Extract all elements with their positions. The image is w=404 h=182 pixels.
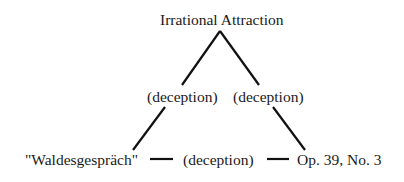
edge-label-top-right: (deception) (233, 89, 304, 105)
edge-label-left-right: (deception) (183, 152, 254, 168)
node-irrational-attraction: Irrational Attraction (160, 12, 284, 28)
edge-top-right-lower (273, 107, 305, 150)
edge-top-right-upper (220, 31, 259, 85)
edge-top-left-upper (182, 31, 220, 85)
edge-label-top-left: (deception) (147, 89, 218, 105)
node-waldesgesprach: "Waldesgespräch" (25, 152, 138, 168)
node-op-39-no-3: Op. 39, No. 3 (297, 152, 381, 168)
edge-top-left-lower (133, 107, 165, 150)
